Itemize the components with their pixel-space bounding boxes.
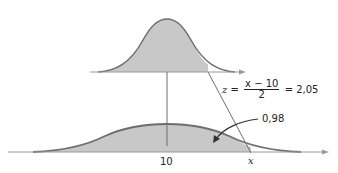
top-axis-arrow-icon (239, 70, 246, 75)
formula-z: z (222, 84, 227, 95)
area-label: 0,98 (262, 113, 284, 124)
bottom-axis-arrow-icon (322, 150, 329, 155)
x-tick-label: x (248, 155, 254, 166)
top-curve-shaded-area (98, 19, 208, 72)
formula-fraction: x − 10 2 (244, 79, 279, 100)
mean-tick-label: 10 (160, 156, 173, 167)
formula-result: = 2,05 (285, 84, 319, 95)
formula: z = x − 10 2 = 2,05 (222, 79, 318, 100)
formula-equals: = (230, 84, 238, 95)
formula-denominator: 2 (259, 90, 265, 100)
